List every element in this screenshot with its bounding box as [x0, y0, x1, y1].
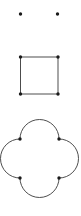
- geometric-figure-canvas: [0, 0, 81, 216]
- square-vertex-top-right: [56, 55, 59, 58]
- square-vertex-top-left: [19, 55, 22, 58]
- quatrefoil-vertex-bottom-right: [57, 176, 60, 179]
- canvas-background: [0, 0, 81, 216]
- square-vertex-bottom-left: [19, 92, 22, 95]
- quatrefoil-vertex-top-left: [18, 137, 21, 140]
- point-marker-right: [56, 12, 59, 15]
- square-vertex-bottom-right: [56, 92, 59, 95]
- point-marker-left: [19, 12, 22, 15]
- quatrefoil-vertex-bottom-left: [18, 176, 21, 179]
- quatrefoil-vertex-top-right: [57, 137, 60, 140]
